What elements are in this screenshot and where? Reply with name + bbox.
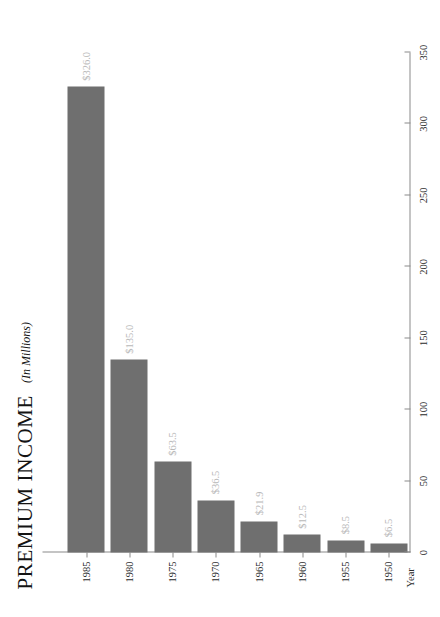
value-tick-label: 200 (417, 258, 428, 274)
category-tick-label: 1985 (80, 561, 91, 582)
value-tick (404, 194, 410, 195)
chart-stage: PREMIUM INCOME(In Millions) 1950$6.51955… (0, 0, 440, 617)
bar-value-label: $63.5 (167, 432, 178, 456)
category-tick-label: 1960 (296, 561, 307, 582)
bar[interactable] (370, 543, 407, 552)
value-tick (404, 551, 410, 552)
category-tick (302, 552, 303, 557)
category-tick-label: 1980 (123, 561, 134, 582)
chart-page: PREMIUM INCOME(In Millions) 1950$6.51955… (0, 0, 440, 617)
bar-row: 1975$63.5 (154, 52, 191, 552)
page-title: PREMIUM INCOME (12, 395, 37, 590)
value-tick (404, 480, 410, 481)
bar-value-label: $8.5 (340, 515, 351, 533)
value-tick-label: 0 (417, 549, 428, 554)
value-axis-line (409, 52, 410, 552)
category-axis-label: Year (404, 568, 415, 587)
value-tick-label: 250 (417, 187, 428, 203)
bar[interactable] (67, 86, 104, 552)
category-tick-label: 1970 (210, 561, 221, 582)
chart-subtitle: (In Millions) (18, 322, 33, 383)
bar-value-label: $36.5 (210, 470, 221, 494)
bar[interactable] (197, 500, 234, 552)
bar-row: 1985$326.0 (67, 52, 104, 552)
value-tick-label: 50 (417, 475, 428, 486)
bar-row: 1960$12.5 (283, 52, 320, 552)
category-tick (388, 552, 389, 557)
category-tick (86, 552, 87, 557)
bar[interactable] (327, 540, 364, 552)
chart-title-block: PREMIUM INCOME(In Millions) (12, 322, 37, 590)
category-tick (259, 552, 260, 557)
bar[interactable] (110, 359, 147, 552)
bar-value-label: $135.0 (123, 324, 134, 353)
value-tick-label: 300 (417, 116, 428, 132)
category-tick (215, 552, 216, 557)
category-tick-label: 1955 (340, 561, 351, 582)
bar[interactable] (283, 534, 320, 552)
bar[interactable] (240, 521, 277, 552)
value-tick (404, 122, 410, 123)
bar-row: 1955$8.5 (327, 52, 364, 552)
bar-row: 1980$135.0 (110, 52, 147, 552)
value-tick-label: 150 (417, 330, 428, 346)
value-tick (404, 408, 410, 409)
plot-area: 1950$6.51955$8.51960$12.51965$21.91970$3… (64, 52, 410, 552)
bar[interactable] (154, 461, 191, 552)
value-tick-label: 350 (417, 44, 428, 60)
bar-row: 1965$21.9 (240, 52, 277, 552)
value-tick-label: 100 (417, 401, 428, 417)
value-tick (404, 51, 410, 52)
value-tick (404, 337, 410, 338)
category-tick-label: 1965 (253, 561, 264, 582)
bar-row: 1970$36.5 (197, 52, 234, 552)
category-tick (345, 552, 346, 557)
bar-value-label: $12.5 (296, 505, 307, 529)
bar-value-label: $6.5 (383, 518, 394, 536)
category-tick-label: 1975 (167, 561, 178, 582)
value-tick (404, 265, 410, 266)
category-tick (129, 552, 130, 557)
category-tick (172, 552, 173, 557)
category-tick-label: 1950 (383, 561, 394, 582)
bar-value-label: $326.0 (80, 51, 91, 80)
bar-row: 1950$6.5 (370, 52, 407, 552)
bar-value-label: $21.9 (253, 491, 264, 515)
